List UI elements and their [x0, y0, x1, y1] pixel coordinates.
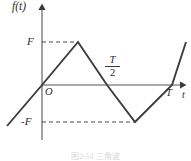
waveform-curve: [7, 42, 186, 126]
y-axis-label: f(t): [12, 1, 26, 13]
x-axis-arrow-icon: [180, 81, 187, 88]
waveform-plot: [0, 0, 191, 161]
positive-amplitude-label: F: [27, 36, 34, 47]
period-label: T: [166, 88, 172, 99]
half-period-label: T 2: [104, 54, 121, 79]
triangular-wave-figure: f(t) F -F O T t T 2 图2-14 三角波: [0, 0, 191, 161]
half-period-numerator: T: [104, 54, 121, 65]
half-period-denominator: 2: [104, 67, 121, 78]
origin-label: O: [45, 87, 53, 98]
x-axis-label: t: [182, 90, 185, 100]
y-axis-arrow-icon: [38, 4, 45, 11]
figure-caption: 图2-14 三角波: [0, 150, 191, 161]
negative-amplitude-label: -F: [21, 116, 31, 127]
